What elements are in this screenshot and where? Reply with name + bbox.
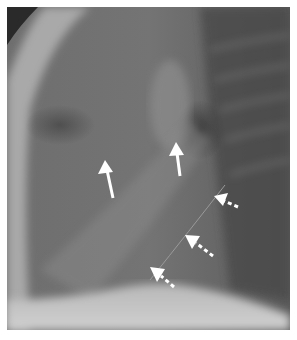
chest-xray-image — [7, 7, 290, 330]
